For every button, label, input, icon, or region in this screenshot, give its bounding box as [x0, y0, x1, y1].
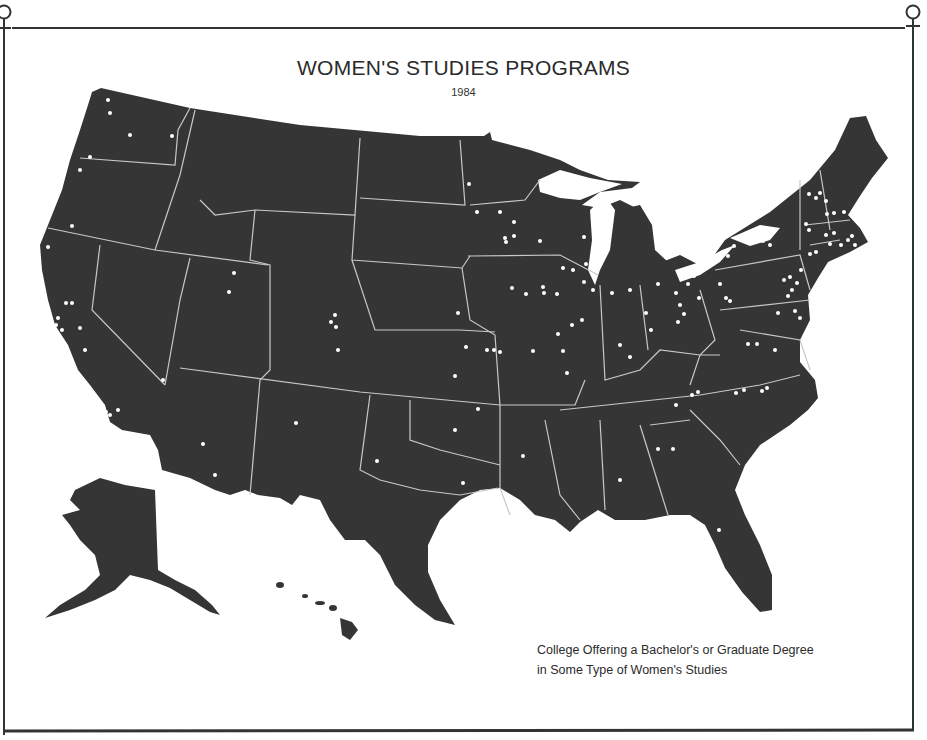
- us-map: [0, 0, 927, 740]
- hawaii: [276, 582, 358, 640]
- legend: College Offering a Bachelor's or Graduat…: [537, 640, 814, 680]
- alaska: [45, 478, 220, 618]
- contiguous-us: [40, 88, 888, 625]
- legend-line-1: College Offering a Bachelor's or Graduat…: [537, 640, 814, 660]
- legend-line-2: in Some Type of Women's Studies: [537, 660, 814, 680]
